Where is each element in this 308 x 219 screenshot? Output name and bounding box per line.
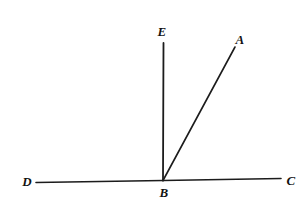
point-label-b: B bbox=[160, 186, 169, 199]
geometry-figure: E A D B C bbox=[0, 0, 308, 219]
ray-bc bbox=[163, 179, 281, 181]
ray-ba bbox=[163, 47, 235, 181]
ray-group bbox=[36, 43, 281, 183]
point-label-e: E bbox=[158, 25, 167, 38]
ray-bd bbox=[36, 181, 163, 183]
figure-canvas bbox=[0, 0, 308, 219]
point-label-c: C bbox=[287, 174, 296, 187]
ray-be bbox=[163, 43, 164, 181]
point-label-a: A bbox=[236, 33, 245, 46]
point-label-d: D bbox=[22, 175, 32, 188]
